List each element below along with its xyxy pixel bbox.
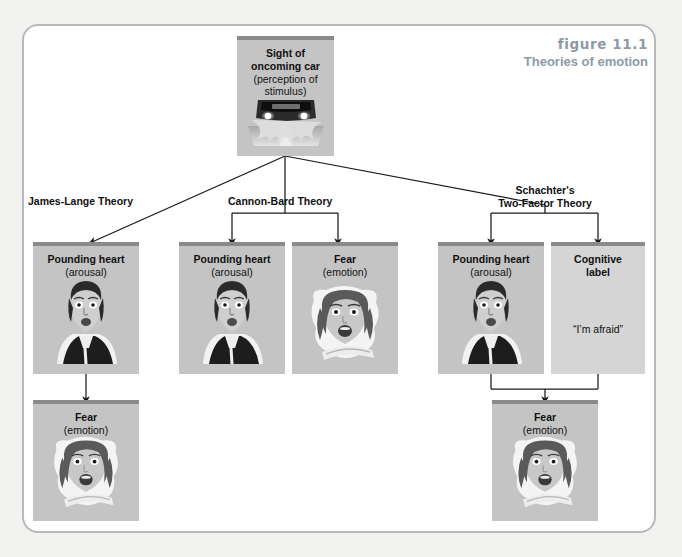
theory-label-cannon-bard: Cannon-Bard Theory [228, 195, 332, 208]
node-title: Sight of oncoming car [241, 47, 330, 73]
node-title: Pounding heart [183, 253, 281, 266]
node-subtitle: (perception of stimulus) [241, 73, 330, 99]
node-text: Cognitive label “I’m afraid” [551, 246, 645, 335]
startled-face-photo [33, 278, 139, 368]
node-text: Sight of oncoming car (perception of sti… [237, 40, 334, 98]
node-text: Fear (emotion) [292, 246, 398, 279]
figure-number: figure 11.1 [524, 36, 648, 53]
startled-face-photo [179, 278, 285, 368]
figure-caption: figure 11.1 Theories of emotion [524, 36, 648, 71]
node-title: Fear [296, 253, 394, 266]
node-title: Pounding heart [37, 253, 135, 266]
node-title: Fear [37, 411, 135, 424]
node-title: Pounding heart [442, 253, 540, 266]
node-cannon-bard-fear[interactable]: Fear (emotion) [292, 242, 398, 374]
node-text: Pounding heart (arousal) [179, 246, 285, 279]
node-text: Fear (emotion) [33, 404, 139, 437]
screaming-driver-photo [33, 433, 139, 515]
node-stimulus[interactable]: Sight of oncoming car (perception of sti… [237, 36, 334, 156]
node-james-lange-arousal[interactable]: Pounding heart (arousal) [33, 242, 139, 374]
node-subtitle: (arousal) [37, 266, 135, 279]
node-text: Pounding heart (arousal) [33, 246, 139, 279]
node-schachter-fear[interactable]: Fear (emotion) [492, 400, 598, 521]
figure-page: figure 11.1 Theories of emotion [0, 0, 682, 557]
screaming-driver-photo [492, 433, 598, 515]
node-subtitle: (arousal) [442, 266, 540, 279]
node-text: Fear (emotion) [492, 404, 598, 437]
node-schachter-cognitive-label[interactable]: Cognitive label “I’m afraid” [551, 242, 645, 374]
screaming-driver-photo [292, 282, 398, 368]
node-subtitle: (emotion) [296, 266, 394, 279]
cognitive-label-quote: “I’m afraid” [555, 323, 641, 336]
theory-label-james-lange: James-Lange Theory [28, 195, 133, 208]
node-title-line1: Cognitive [555, 253, 641, 266]
node-james-lange-fear[interactable]: Fear (emotion) [33, 400, 139, 521]
node-subtitle: (arousal) [183, 266, 281, 279]
node-text: Pounding heart (arousal) [438, 246, 544, 279]
theory-label-schachter: Schachter's Two-Factor Theory [487, 184, 603, 211]
startled-face-photo [438, 278, 544, 368]
node-cannon-bard-arousal[interactable]: Pounding heart (arousal) [179, 242, 285, 374]
node-title: Fear [496, 411, 594, 424]
figure-title: Theories of emotion [524, 54, 648, 71]
node-schachter-arousal[interactable]: Pounding heart (arousal) [438, 242, 544, 374]
node-title-line2: label [555, 266, 641, 279]
oncoming-car-photo [237, 96, 334, 150]
